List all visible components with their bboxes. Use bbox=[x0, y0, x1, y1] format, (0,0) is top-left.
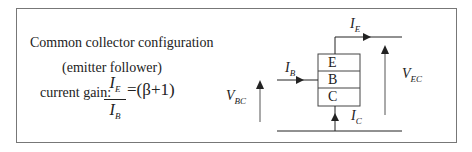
label-ie: IE bbox=[350, 16, 360, 34]
ib-arrow-icon bbox=[296, 76, 304, 84]
transistor-box bbox=[318, 54, 360, 106]
label-vec: VEC bbox=[402, 66, 422, 84]
ie-arrow-icon bbox=[363, 33, 371, 41]
ic-arrow-icon bbox=[331, 113, 339, 121]
label-vbc: VBC bbox=[226, 88, 246, 106]
label-ib: IB bbox=[285, 60, 295, 78]
vbc-arrow-icon bbox=[256, 80, 264, 89]
emitter-wire bbox=[335, 37, 402, 54]
terminal-c: C bbox=[328, 89, 337, 105]
vec-arrow-icon bbox=[381, 45, 389, 54]
terminal-b: B bbox=[328, 72, 337, 88]
label-ic: IC bbox=[351, 108, 362, 126]
terminal-e: E bbox=[328, 55, 337, 71]
